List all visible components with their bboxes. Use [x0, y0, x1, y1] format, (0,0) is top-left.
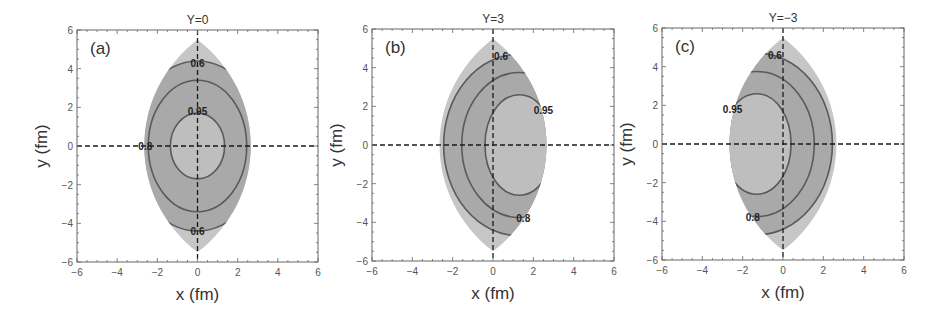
y-tick-label: 0: [652, 139, 658, 150]
y-tick-label: 2: [362, 101, 368, 112]
panel-tag: (a): [90, 39, 111, 58]
x-tick-label: 0: [490, 266, 496, 277]
x-tick-label: −4: [697, 265, 709, 276]
y-tick-label: 6: [652, 23, 658, 34]
y-tick-label: −2: [647, 178, 659, 189]
contour-label: 0.8: [746, 212, 760, 223]
contour-label: 0.6: [191, 58, 205, 69]
x-tick-label: 6: [315, 267, 321, 278]
panel-title: Y=3: [482, 12, 504, 26]
contour-label: 0.6: [768, 50, 782, 61]
y-axis-label: y (fm): [327, 123, 346, 166]
x-tick-label: 4: [275, 267, 281, 278]
y-tick-label: −4: [62, 218, 74, 229]
y-tick-label: −2: [357, 179, 369, 190]
y-tick-label: 4: [67, 64, 73, 75]
x-axis-label: x (fm): [761, 283, 804, 302]
y-tick-label: −6: [357, 256, 369, 267]
y-tick-label: 0: [67, 141, 73, 152]
contour-label: 0.8: [516, 213, 530, 224]
figure: 0.60.80.950.6−6−4−20246−6−4−20246Y=0(a)x…: [0, 0, 937, 310]
x-tick-label: −4: [111, 267, 123, 278]
contour-label: 0.8: [138, 141, 152, 152]
x-axis-label: x (fm): [471, 284, 514, 303]
y-tick-label: −6: [647, 255, 659, 266]
x-tick-label: −4: [407, 266, 419, 277]
y-tick-label: 2: [652, 100, 658, 111]
x-tick-label: −6: [366, 266, 378, 277]
y-tick-label: −4: [647, 216, 659, 227]
x-tick-label: 4: [571, 266, 577, 277]
x-axis-label: x (fm): [176, 285, 219, 304]
contour-label: 0.6: [191, 226, 205, 237]
x-tick-label: 2: [235, 267, 241, 278]
panel-tag: (c): [675, 37, 695, 56]
panel-title: Y=−3: [769, 11, 798, 25]
y-tick-label: 4: [362, 63, 368, 74]
contour-label: 0.95: [723, 104, 743, 115]
x-tick-label: 2: [531, 266, 537, 277]
x-tick-label: −2: [447, 266, 459, 277]
y-tick-label: −2: [62, 180, 74, 191]
x-tick-label: 0: [195, 267, 201, 278]
contour-plot-figure: 0.60.80.950.6−6−4−20246−6−4−20246Y=0(a)x…: [0, 0, 937, 310]
panel-c: 0.60.80.95−6−4−20246−6−4−20246Y=−3(c)x (…: [617, 11, 907, 302]
x-tick-label: 0: [780, 265, 786, 276]
x-tick-label: −2: [737, 265, 749, 276]
y-tick-label: 2: [67, 102, 73, 113]
panel-a: 0.60.80.950.6−6−4−20246−6−4−20246Y=0(a)x…: [32, 13, 321, 304]
x-tick-label: 4: [861, 265, 867, 276]
x-tick-label: −6: [71, 267, 83, 278]
y-tick-label: 4: [652, 62, 658, 73]
contour-label: 0.6: [494, 51, 508, 62]
x-tick-label: −2: [152, 267, 164, 278]
y-axis-label: y (fm): [32, 124, 51, 167]
contour-label: 0.95: [534, 105, 554, 116]
x-tick-label: 2: [821, 265, 827, 276]
panel-b: 0.60.80.95−6−4−20246−6−4−20246Y=3(b)x (f…: [327, 12, 617, 303]
y-tick-label: 6: [362, 24, 368, 35]
x-tick-label: 6: [901, 265, 907, 276]
panel-title: Y=0: [187, 13, 209, 27]
y-tick-label: 0: [362, 140, 368, 151]
panel-tag: (b): [385, 38, 406, 57]
y-axis-label: y (fm): [617, 122, 636, 165]
x-tick-label: −6: [656, 265, 668, 276]
x-tick-label: 6: [611, 266, 617, 277]
y-tick-label: −6: [62, 257, 74, 268]
y-tick-label: 6: [67, 25, 73, 36]
y-tick-label: −4: [357, 217, 369, 228]
contour-label: 0.95: [188, 106, 208, 117]
